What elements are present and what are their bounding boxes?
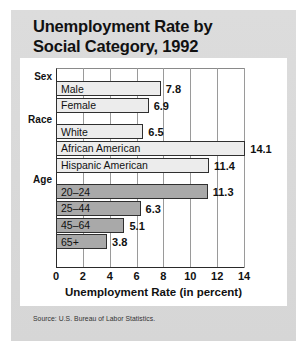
bar-label: Male [61, 83, 84, 95]
bar-label: White [61, 126, 88, 138]
title-line-1: Unemployment Rate by [33, 17, 212, 35]
group-label-race: Race [18, 114, 52, 125]
bar-age-0[interactable]: 20–24 [56, 184, 208, 199]
bar-race-1[interactable]: African American [56, 141, 245, 156]
bar-label: 20–24 [61, 186, 90, 198]
bar-value: 6.9 [154, 100, 169, 112]
chart-panel: SexRaceAge Male7.8Female6.9White6.5Afric… [20, 58, 287, 306]
bar-age-3[interactable]: 65+ [56, 234, 107, 249]
bar-label: 25–44 [61, 202, 90, 214]
x-tick-12: 12 [207, 270, 227, 282]
bar-label: African American [61, 142, 140, 154]
bar-label: Female [61, 99, 96, 111]
bar-value: 6.5 [148, 126, 163, 138]
bar-sex-1[interactable]: Female [56, 98, 149, 113]
bar-race-2[interactable]: Hispanic American [56, 158, 209, 173]
chart-card: Unemployment Rate by Social Category, 19… [11, 10, 296, 341]
bar-age-2[interactable]: 45–64 [56, 218, 124, 233]
x-tick-0: 0 [46, 270, 66, 282]
x-tick-8: 8 [153, 270, 173, 282]
bar-age-1[interactable]: 25–44 [56, 201, 141, 216]
title-line-2: Social Category, 1992 [33, 36, 283, 56]
plot-area: Male7.8Female6.9White6.5African American… [56, 68, 244, 268]
x-tick-14: 14 [234, 270, 254, 282]
bar-value: 11.3 [213, 186, 234, 198]
bar-value: 14.1 [250, 143, 271, 155]
screenshot-root: Unemployment Rate by Social Category, 19… [0, 0, 308, 356]
bar-value: 11.4 [214, 160, 235, 172]
x-tick-6: 6 [127, 270, 147, 282]
bar-label: Hispanic American [61, 159, 148, 171]
bar-value: 6.3 [146, 203, 161, 215]
bar-label: 65+ [61, 236, 79, 248]
group-label-age: Age [18, 174, 52, 185]
bar-value: 5.1 [129, 220, 144, 232]
bar-value: 3.8 [112, 236, 127, 248]
source-note: Source: U.S. Bureau of Labor Statistics. [33, 315, 155, 322]
bar-race-0[interactable]: White [56, 124, 143, 139]
page-title: Unemployment Rate by Social Category, 19… [33, 16, 283, 56]
x-axis-line [56, 267, 244, 268]
bar-value: 7.8 [166, 83, 181, 95]
bar-label: 45–64 [61, 219, 90, 231]
gridline-14 [244, 68, 245, 268]
group-label-sex: Sex [18, 71, 52, 82]
x-tick-2: 2 [73, 270, 93, 282]
x-axis-label: Unemployment Rate (in percent) [20, 286, 287, 298]
x-tick-4: 4 [100, 270, 120, 282]
bar-sex-0[interactable]: Male [56, 81, 161, 96]
x-tick-10: 10 [180, 270, 200, 282]
